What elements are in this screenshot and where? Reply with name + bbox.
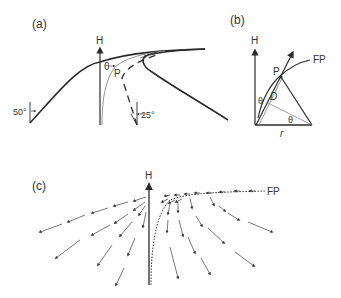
fault-curve-left xyxy=(30,49,205,123)
angle-tick-right-leg xyxy=(131,114,137,125)
theta-symbol: θ xyxy=(104,61,110,72)
h-axis-label: H xyxy=(96,35,103,46)
panel-b: (b) H r FP P D θ θ xyxy=(230,13,326,139)
figure-canvas: (a) H 25° 50° θ P (b) H r xyxy=(0,0,341,298)
convergence-arrows xyxy=(162,191,255,203)
h-axis-label-b: H xyxy=(251,35,258,46)
direction-arrow xyxy=(256,54,292,125)
panel-a: (a) H 25° 50° θ P xyxy=(13,17,228,125)
theta-symbol-b2: θ xyxy=(288,115,293,125)
theta-symbol-b1: θ xyxy=(258,96,263,106)
distance-label: D xyxy=(270,91,277,102)
point-p-label: P xyxy=(114,68,121,79)
displacement-arrows-left xyxy=(40,197,146,285)
point-p-label-b: P xyxy=(273,66,280,77)
h-axis-label-c: H xyxy=(145,170,152,181)
right-angle-label: 25° xyxy=(141,110,155,120)
panel-c: (c) H FP xyxy=(32,170,280,285)
thin-trajectory-curve xyxy=(102,51,165,125)
left-angle-label: 50° xyxy=(13,107,27,117)
triangle-side xyxy=(281,77,312,125)
radius-label: r xyxy=(280,128,284,139)
point-p-marker xyxy=(280,76,283,79)
displacement-arrows-right xyxy=(167,197,272,278)
fp-label-c: FP xyxy=(267,186,280,197)
panel-b-label: (b) xyxy=(230,13,245,27)
panel-a-label: (a) xyxy=(32,17,47,31)
panel-c-label: (c) xyxy=(32,179,46,193)
fault-curve-right xyxy=(143,49,228,120)
fp-label-b: FP xyxy=(313,54,326,65)
